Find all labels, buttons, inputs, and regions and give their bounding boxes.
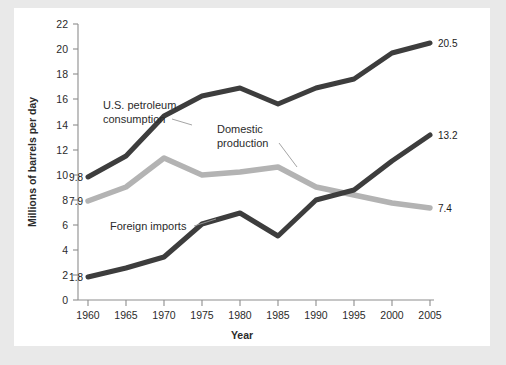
y-axis-title: Millions of barrels per day bbox=[26, 97, 38, 227]
y-tick-label: 0 bbox=[62, 294, 68, 306]
annotation-line-1: U.S. petroleum bbox=[103, 99, 176, 111]
x-tick-label: 1990 bbox=[304, 309, 328, 321]
chart-figure: 22 20 18 16 14 12 10 8 6 4 2 0 bbox=[14, 8, 490, 346]
y-tick-label: 20 bbox=[56, 43, 68, 55]
y-tick-label: 6 bbox=[62, 219, 68, 231]
x-tick-label: 1995 bbox=[342, 309, 366, 321]
y-tick-label: 2 bbox=[62, 269, 68, 281]
x-tick-label: 1975 bbox=[190, 309, 214, 321]
y-tick-label: 14 bbox=[56, 119, 68, 131]
y-tick-label: 16 bbox=[56, 93, 68, 105]
x-tick-label: 2005 bbox=[418, 309, 442, 321]
y-tick-label: 8 bbox=[62, 194, 68, 206]
value-label-imports-end: 13.2 bbox=[438, 130, 458, 141]
x-tick-label: 1985 bbox=[266, 309, 290, 321]
y-tick-label: 12 bbox=[56, 144, 68, 156]
value-label-consumption-start: 9.8 bbox=[69, 172, 83, 183]
x-tick-label: 1980 bbox=[228, 309, 252, 321]
annotation-line-2: consumption bbox=[103, 113, 165, 125]
value-label-consumption-end: 20.5 bbox=[438, 38, 458, 49]
value-label-imports-start: 1.8 bbox=[69, 272, 83, 283]
annotation-line-1: Foreign imports bbox=[110, 220, 187, 232]
value-label-production-end: 7.4 bbox=[438, 203, 452, 214]
petroleum-line-chart: 22 20 18 16 14 12 10 8 6 4 2 0 bbox=[14, 8, 490, 346]
annotation-line-1: Domestic bbox=[217, 123, 263, 135]
y-tick-label: 4 bbox=[62, 244, 68, 256]
x-tick-label: 1960 bbox=[76, 309, 100, 321]
y-tick-label: 22 bbox=[56, 18, 68, 30]
x-axis-title: Year bbox=[231, 329, 253, 341]
x-tick-label: 1965 bbox=[114, 309, 138, 321]
x-tick-label: 1970 bbox=[152, 309, 176, 321]
y-tick-label: 18 bbox=[56, 68, 68, 80]
value-label-production-start: 7.9 bbox=[69, 196, 83, 207]
y-tick-label: 10 bbox=[56, 169, 68, 181]
x-tick-label: 2000 bbox=[380, 309, 404, 321]
annotation-line-2: production bbox=[217, 137, 268, 149]
plot-background bbox=[14, 8, 490, 346]
